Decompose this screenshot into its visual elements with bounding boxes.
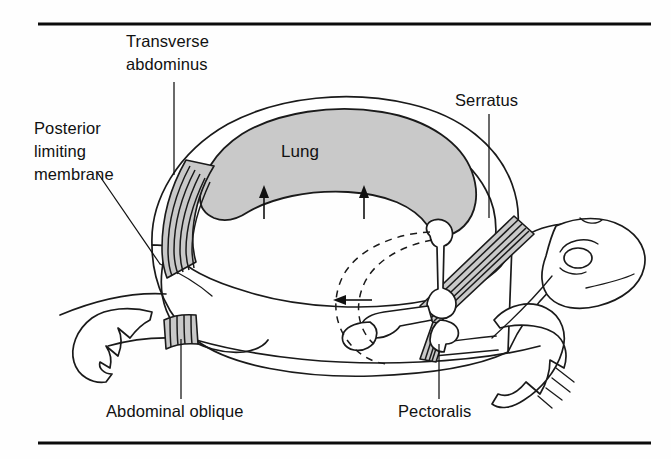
- label-pectoralis: Pectoralis: [398, 402, 471, 420]
- transverse-abdominus-line1: Transverse: [126, 32, 209, 50]
- posterior-limiting-membrane-line3: membrane: [34, 165, 114, 183]
- lung-label: Lung: [281, 142, 319, 161]
- posterior-limiting-membrane-line2: limiting: [34, 142, 86, 160]
- label-abdominal-oblique: Abdominal oblique: [106, 402, 243, 420]
- scapula-bone: [427, 219, 456, 318]
- figure-root: Lung: [0, 0, 671, 459]
- shoulder-arrow: [333, 295, 372, 305]
- label-transverse-abdominus: Transverse abdominus: [126, 32, 209, 73]
- label-serratus: Serratus: [455, 91, 518, 109]
- turtle-respiration-diagram: Lung: [0, 0, 671, 459]
- transverse-abdominus-line2: abdominus: [126, 55, 208, 73]
- leader-posterior-limiting-membrane: [97, 172, 160, 264]
- turtle-head: [542, 219, 645, 309]
- label-posterior-limiting-membrane: Posterior limiting membrane: [34, 119, 114, 183]
- plastron-outline: [152, 244, 512, 376]
- posterior-limiting-membrane-line1: Posterior: [34, 119, 101, 137]
- fore-limb: [492, 304, 566, 407]
